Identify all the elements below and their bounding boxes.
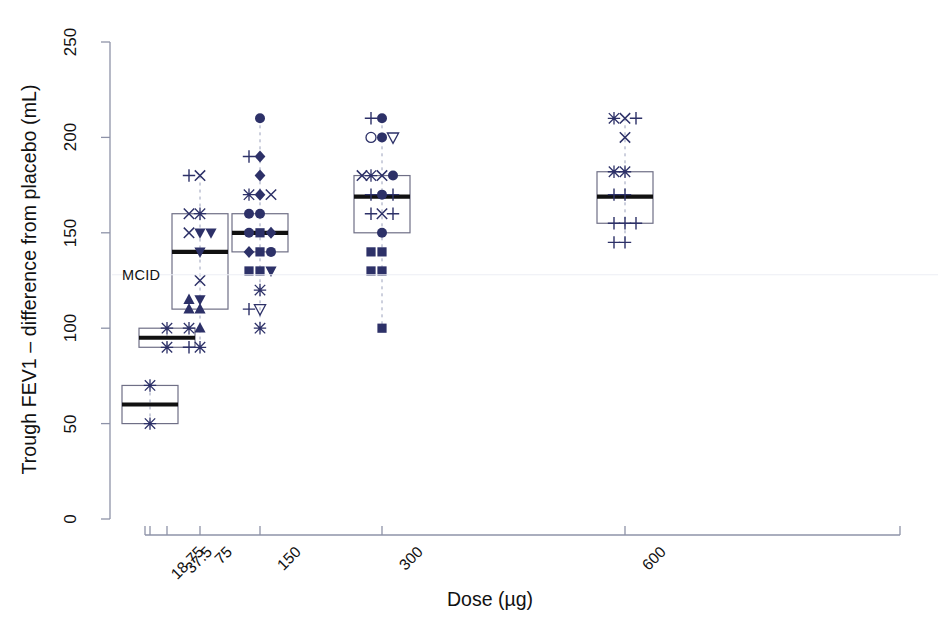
data-point-plus [243, 303, 255, 315]
data-point-x [620, 113, 630, 123]
data-point-square [366, 247, 375, 256]
data-point-plus [365, 112, 377, 124]
data-point-asterisk [183, 322, 195, 334]
data-point-diamond [244, 246, 255, 258]
data-point-square [377, 324, 386, 333]
data-point-plus [243, 150, 255, 162]
figure-root: Trough FEV1 – difference from placebo (m… [0, 0, 945, 635]
data-point-plus [608, 217, 620, 229]
data-point-asterisk [243, 188, 255, 200]
data-point-circle [266, 247, 276, 257]
data-point-x [195, 275, 205, 285]
data-point-circle [244, 209, 254, 219]
data-point-plus [365, 188, 377, 200]
y-axis-title: Trough FEV1 – difference from placebo (m… [18, 45, 41, 515]
data-point-plus [619, 217, 631, 229]
data-point-circle [377, 113, 387, 123]
data-point-circle [388, 171, 398, 181]
data-point-triangle-up [183, 294, 194, 304]
data-point-triangle-up [183, 303, 194, 313]
data-point-plus [619, 236, 631, 248]
data-point-asterisk [194, 341, 206, 353]
boxplot-canvas [0, 0, 945, 635]
data-point-plus [183, 341, 195, 353]
data-point-plus [608, 236, 620, 248]
data-point-circle [255, 209, 265, 219]
y-axis-tick-label: 0 [61, 488, 81, 550]
data-point-triangle-down [265, 267, 276, 277]
data-point-circle [255, 113, 265, 123]
data-point-asterisk [144, 417, 156, 429]
data-point-asterisk [144, 379, 156, 391]
data-point-asterisk [254, 284, 266, 296]
data-point-square [255, 228, 264, 237]
data-point-circle [377, 190, 387, 200]
data-point-diamond [255, 170, 266, 182]
data-point-square [255, 266, 264, 275]
data-point-triangle-down [205, 228, 216, 238]
data-point-plus [387, 208, 399, 220]
data-point-circle-open [366, 132, 376, 142]
mcid-annotation-label: MCID [122, 267, 160, 283]
data-point-asterisk [161, 322, 173, 334]
y-axis-tick-label: 200 [61, 106, 81, 168]
data-point-plus [630, 112, 642, 124]
data-point-plus [183, 169, 195, 181]
data-point-circle [377, 132, 387, 142]
x-axis-title: Dose (µg) [330, 588, 650, 611]
data-point-plus [619, 188, 631, 200]
data-point-x [195, 170, 205, 180]
y-axis-tick-label: 150 [61, 202, 81, 264]
data-point-circle [377, 228, 387, 238]
data-point-diamond [255, 150, 266, 162]
data-point-triangle-down [194, 228, 205, 238]
data-point-asterisk [619, 166, 631, 178]
data-point-triangle-up [194, 322, 205, 332]
data-point-circle [244, 228, 254, 238]
y-axis-tick-label: 100 [61, 297, 81, 359]
data-point-asterisk [608, 112, 620, 124]
data-point-plus [365, 208, 377, 220]
data-point-triangle-down-open [387, 133, 398, 143]
data-point-asterisk [161, 341, 173, 353]
data-point-plus [608, 188, 620, 200]
data-point-asterisk [194, 208, 206, 220]
data-point-diamond [255, 189, 266, 201]
data-point-asterisk [608, 166, 620, 178]
data-point-diamond [266, 227, 277, 239]
data-point-square [366, 266, 375, 275]
data-point-x [266, 189, 276, 199]
y-axis-tick-label: 50 [61, 393, 81, 455]
data-point-x [184, 228, 194, 238]
data-point-plus [630, 217, 642, 229]
data-point-square [255, 247, 264, 256]
y-axis-tick-label: 250 [61, 11, 81, 73]
data-point-asterisk [254, 322, 266, 334]
data-point-triangle-up [194, 303, 205, 313]
data-point-square [377, 266, 386, 275]
data-point-plus [387, 188, 399, 200]
data-point-square [377, 247, 386, 256]
data-point-square [244, 266, 253, 275]
